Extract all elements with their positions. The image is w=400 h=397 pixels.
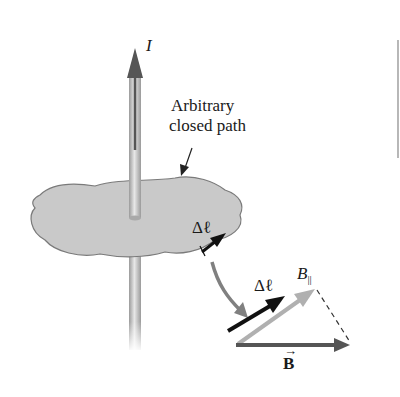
vector-arrow-icon: →: [284, 343, 297, 359]
connector-arrow-icon: [212, 262, 248, 318]
b-parallel-label: B||: [297, 264, 312, 285]
label-pointer-arrow-icon: [180, 148, 192, 176]
projection-dashed-line: [317, 290, 350, 342]
b-vector-label: →B: [283, 354, 294, 374]
wire-lower: [127, 250, 143, 352]
delta-l-label-upper: Δℓ: [192, 218, 211, 238]
b-parallel-subscript: ||: [307, 273, 311, 285]
ampere-law-diagram: [0, 0, 400, 397]
path-label-line1: Arbitrary: [171, 96, 234, 116]
path-label-line2: closed path: [169, 116, 246, 136]
current-label: I: [146, 36, 152, 56]
delta-l-label-lower: Δℓ: [254, 276, 273, 296]
